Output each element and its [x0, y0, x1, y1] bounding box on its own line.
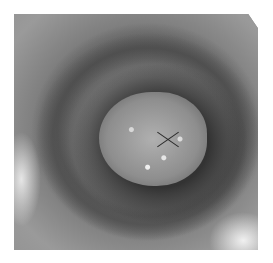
endoscopic-photo — [14, 14, 258, 250]
light-reflection-bottom-right — [14, 14, 258, 250]
